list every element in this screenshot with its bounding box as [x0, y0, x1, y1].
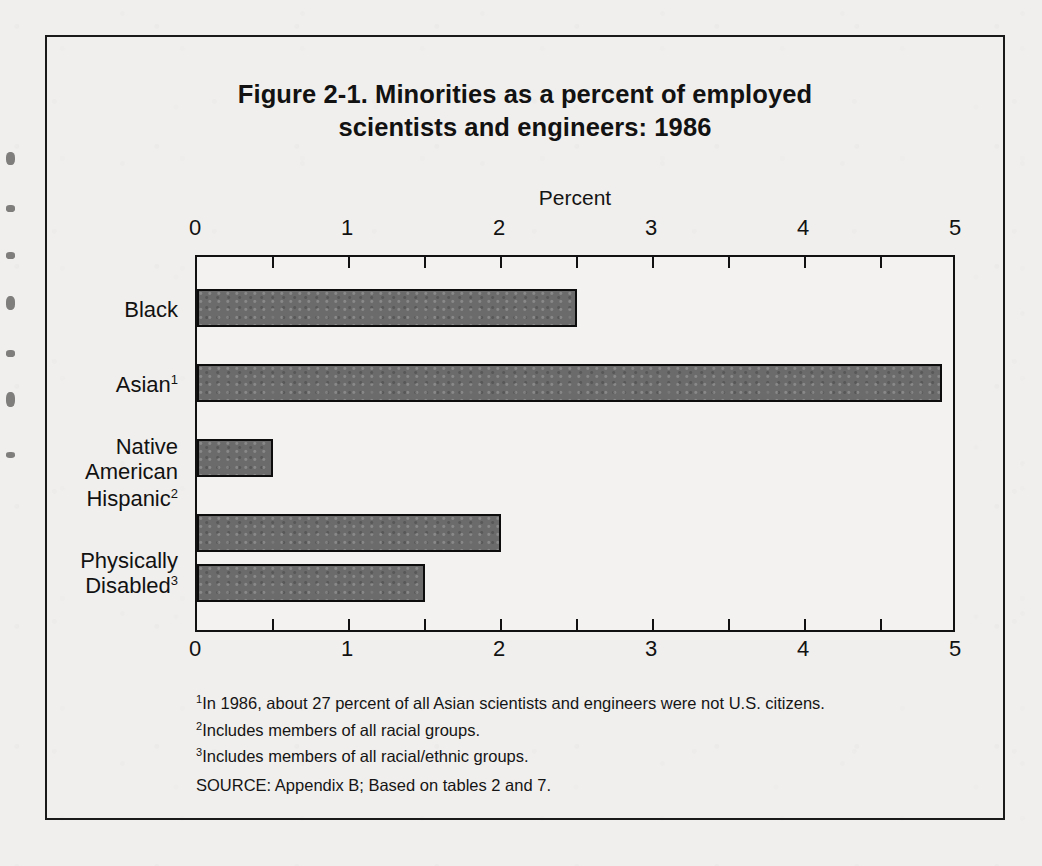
- category-label-line: Hispanic2: [0, 486, 178, 511]
- footnote-3: 3Includes members of all racial/ethnic g…: [196, 743, 956, 770]
- axis-tick-bottom: [652, 619, 654, 630]
- figure-title: Figure 2-1. Minorities as a percent of e…: [45, 78, 1005, 144]
- category-label-line: Native: [0, 434, 178, 459]
- axis-tick-bottom: [500, 619, 502, 630]
- footnote-marker: 1: [196, 693, 202, 705]
- category-label-asian: Asian1: [0, 372, 178, 397]
- tick-label-top: 3: [645, 215, 657, 241]
- axis-tick-top: [348, 257, 350, 268]
- footnote-2: 2Includes members of all racial groups.: [196, 717, 956, 744]
- axis-tick-bottom: [804, 619, 806, 630]
- footnote-marker: 2: [196, 719, 202, 731]
- category-label-physically-disabled: PhysicallyDisabled3: [0, 548, 178, 598]
- tick-label-top: 5: [949, 215, 961, 241]
- category-label-line: Black: [0, 297, 178, 322]
- axis-tick-top: [728, 257, 730, 268]
- footnote-marker: 2: [171, 486, 178, 501]
- axis-tick-top: [652, 257, 654, 268]
- category-label-hispanic: Hispanic2: [0, 486, 178, 511]
- footnote-marker: 3: [196, 746, 202, 758]
- tick-label-top: 2: [493, 215, 505, 241]
- axis-tick-top: [804, 257, 806, 268]
- figure-title-line-1: Figure 2-1. Minorities as a percent of e…: [45, 78, 1005, 111]
- footnote-marker: 3: [171, 573, 178, 588]
- axis-tick-bottom: [728, 619, 730, 630]
- bar-hispanic: [197, 514, 501, 552]
- bar-asian: [197, 364, 942, 402]
- tick-label-bottom: 1: [341, 636, 353, 662]
- axis-tick-bottom: [576, 619, 578, 630]
- category-label-line: American: [0, 459, 178, 484]
- bar-native-american: [197, 439, 273, 477]
- category-label-line: Disabled3: [0, 573, 178, 598]
- axis-tick-bottom: [424, 619, 426, 630]
- y-axis-category-labels: Black Asian1 NativeAmerican Hispanic2 Ph…: [0, 0, 178, 866]
- axis-tick-top: [272, 257, 274, 268]
- category-label-black: Black: [0, 297, 178, 322]
- axis-tick-bottom: [272, 619, 274, 630]
- category-label-native-american: NativeAmerican: [0, 434, 178, 484]
- category-label-line: Physically: [0, 548, 178, 573]
- axis-tick-top: [424, 257, 426, 268]
- figure-footnotes: 1In 1986, about 27 percent of all Asian …: [196, 690, 956, 799]
- axis-tick-bottom: [880, 619, 882, 630]
- axis-tick-top: [576, 257, 578, 268]
- x-axis-title: Percent: [195, 186, 955, 210]
- figure-source: SOURCE: Appendix B; Based on tables 2 an…: [196, 772, 956, 799]
- tick-label-bottom: 2: [493, 636, 505, 662]
- footnote-1: 1In 1986, about 27 percent of all Asian …: [196, 690, 956, 717]
- axis-tick-bottom: [348, 619, 350, 630]
- axis-tick-top: [880, 257, 882, 268]
- tick-label-bottom: 5: [949, 636, 961, 662]
- tick-label-bottom: 3: [645, 636, 657, 662]
- tick-label-top: 0: [189, 215, 201, 241]
- tick-label-top: 1: [341, 215, 353, 241]
- tick-label-top: 4: [797, 215, 809, 241]
- bar-black: [197, 289, 577, 327]
- bar-physically-disabled: [197, 564, 425, 602]
- footnote-marker: 1: [171, 372, 178, 387]
- plot-area: [195, 255, 955, 632]
- category-label-line: Asian1: [0, 372, 178, 397]
- tick-label-bottom: 4: [797, 636, 809, 662]
- figure-title-line-2: scientists and engineers: 1986: [45, 111, 1005, 144]
- axis-tick-top: [500, 257, 502, 268]
- tick-label-bottom: 0: [189, 636, 201, 662]
